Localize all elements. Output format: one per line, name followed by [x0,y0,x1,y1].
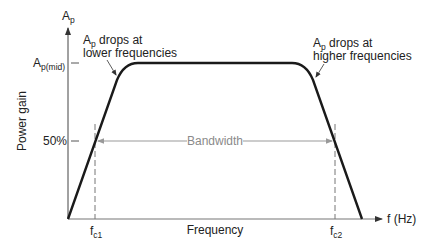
x-axis-unit-label: f (Hz) [387,212,416,226]
diagram-canvas: Bandwidth Ap Ap(mid) 50% Power gain fc1 … [0,0,430,248]
low-annotation-pointer [107,60,116,75]
y-axis-symbol: Ap [62,9,75,25]
fc1-label: fc1 [90,224,103,240]
y-axis-label: Power gain [15,91,29,151]
frequency-response-diagram: Bandwidth Ap Ap(mid) 50% Power gain fc1 … [0,0,430,248]
low-annotation-line2: lower frequencies [83,46,177,60]
fifty-percent-label: 50% [43,134,67,148]
bandwidth-label: Bandwidth [187,134,243,148]
ap-mid-label: Ap(mid) [33,56,65,72]
x-axis-label: Frequency [187,223,244,237]
fc2-label: fc2 [330,224,343,240]
high-annotation-line2: higher frequencies [313,49,412,63]
high-annotation-pointer [316,64,324,77]
